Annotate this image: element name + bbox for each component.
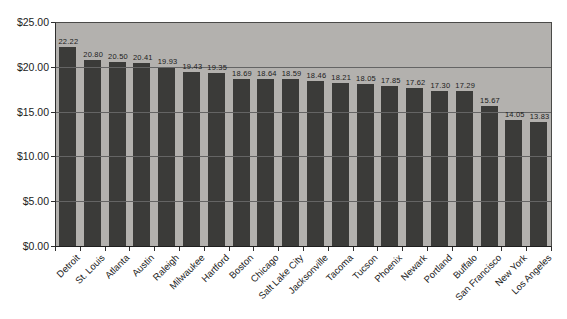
x-axis-tick xyxy=(427,247,428,251)
x-axis-tick xyxy=(452,247,453,251)
bar xyxy=(381,86,398,246)
y-axis-tick xyxy=(51,22,55,23)
x-axis-tick xyxy=(278,247,279,251)
bar xyxy=(84,60,101,246)
x-axis-tick xyxy=(129,247,130,251)
x-axis-tick xyxy=(303,247,304,251)
bar-chart-figure: $25.00$20.00$15.00$10.00$5.00$0.0022.22D… xyxy=(0,0,567,319)
bar xyxy=(357,84,374,246)
bar xyxy=(505,120,522,246)
bar xyxy=(481,106,498,246)
x-axis-tick xyxy=(179,247,180,251)
x-axis-tick xyxy=(477,247,478,251)
bar xyxy=(109,62,126,246)
y-axis-label: $15.00 xyxy=(0,106,49,118)
bar xyxy=(282,79,299,246)
x-axis-tick xyxy=(154,247,155,251)
bar xyxy=(133,63,150,246)
bar xyxy=(332,83,349,246)
y-axis-label: $20.00 xyxy=(0,61,49,73)
bar xyxy=(183,72,200,246)
y-axis-tick xyxy=(51,156,55,157)
x-axis-tick xyxy=(402,247,403,251)
x-axis-tick xyxy=(80,247,81,251)
gridline xyxy=(56,156,551,157)
x-axis-label: Atlanta xyxy=(103,252,132,281)
y-axis-tick xyxy=(51,67,55,68)
bar xyxy=(208,73,225,246)
x-axis-tick xyxy=(328,247,329,251)
gridline xyxy=(56,112,551,113)
bar xyxy=(307,81,324,246)
gridline xyxy=(56,201,551,202)
x-axis-tick xyxy=(526,247,527,251)
x-axis-tick xyxy=(229,247,230,251)
x-axis-tick xyxy=(501,247,502,251)
x-axis-tick xyxy=(551,247,552,251)
y-axis-label: $10.00 xyxy=(0,150,49,162)
y-axis-label: $5.00 xyxy=(0,195,49,207)
x-axis-tick xyxy=(377,247,378,251)
gridline xyxy=(56,67,551,68)
bar xyxy=(233,79,250,246)
x-axis-tick xyxy=(253,247,254,251)
y-axis-label: $25.00 xyxy=(0,16,49,28)
x-axis-tick xyxy=(105,247,106,251)
bar-value-label: 15.67 xyxy=(470,96,510,105)
x-axis-tick xyxy=(55,247,56,251)
bar xyxy=(59,47,76,246)
y-axis-label: $0.00 xyxy=(0,240,49,252)
bar xyxy=(530,122,547,246)
x-axis-label: Tacoma xyxy=(324,252,355,283)
x-axis-tick xyxy=(204,247,205,251)
y-axis-tick xyxy=(51,112,55,113)
bar xyxy=(456,91,473,246)
bar-value-label: 17.29 xyxy=(445,81,485,90)
bar xyxy=(431,91,448,246)
y-axis-tick xyxy=(51,201,55,202)
bar xyxy=(257,79,274,246)
x-axis-tick xyxy=(353,247,354,251)
bar-value-label: 13.83 xyxy=(520,112,560,121)
bar-value-label: 22.22 xyxy=(48,37,88,46)
